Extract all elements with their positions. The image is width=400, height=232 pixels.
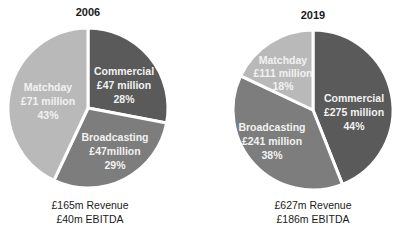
svg-text:28%: 28% — [113, 93, 135, 105]
revenue-pie-charts: 2006 Commercial £47 million 28% Broadcas… — [0, 0, 400, 232]
pie-chart-2006: 2006 Commercial £47 million 28% Broadcas… — [8, 6, 168, 225]
svg-text:Matchday: Matchday — [259, 54, 308, 66]
svg-text:£111 million: £111 million — [254, 67, 313, 79]
svg-text:Broadcasting: Broadcasting — [238, 121, 305, 133]
svg-text:£627m Revenue: £627m Revenue — [274, 199, 351, 211]
svg-text:Broadcasting: Broadcasting — [81, 131, 148, 143]
svg-text:£241 million: £241 million — [242, 135, 302, 147]
svg-text:£71 million: £71 million — [21, 95, 75, 107]
pie-slices — [8, 28, 168, 188]
svg-text:£165m Revenue: £165m Revenue — [51, 199, 128, 211]
pie-title: 2019 — [301, 9, 325, 21]
pie-title: 2006 — [76, 6, 100, 18]
svg-text:18%: 18% — [272, 80, 294, 92]
svg-text:£275 million: £275 million — [324, 106, 384, 118]
svg-text:£47 million: £47 million — [97, 79, 151, 91]
svg-text:Commercial: Commercial — [94, 65, 154, 77]
svg-text:38%: 38% — [261, 149, 283, 161]
svg-text:£186m EBITDA: £186m EBITDA — [277, 213, 350, 225]
pie-chart-2019: 2019 Commercial £275 million 44% Broadca… — [233, 9, 393, 225]
svg-text:Matchday: Matchday — [24, 81, 73, 93]
svg-text:43%: 43% — [37, 109, 59, 121]
svg-text:Commercial: Commercial — [324, 92, 384, 104]
svg-text:29%: 29% — [104, 159, 126, 171]
svg-text:£40m EBITDA: £40m EBITDA — [56, 213, 123, 225]
svg-text:£47million: £47million — [89, 145, 140, 157]
pie-footer: £165m Revenue £40m EBITDA — [51, 199, 128, 225]
svg-text:44%: 44% — [343, 120, 365, 132]
pie-footer: £627m Revenue £186m EBITDA — [274, 199, 351, 225]
